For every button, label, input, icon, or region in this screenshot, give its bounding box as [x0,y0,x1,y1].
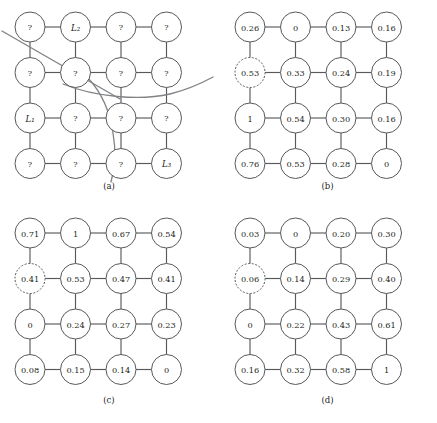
panel-c: 0.7110.670.540.410.530.470.4100.240.270.… [0,203,218,423]
node-value: 0.23 [157,320,175,330]
panel-d-canvas: 0.0300.200.300.060.140.290.4000.220.430.… [218,203,437,423]
panel-c-caption: (c) [0,395,218,405]
node-unknown-marker: ? [73,114,77,123]
node-unknown-marker: ? [164,114,168,123]
node-value: 1 [384,365,389,375]
node-value: 0.41 [21,274,39,284]
panel-c-canvas: 0.7110.670.540.410.530.470.4100.240.270.… [0,203,218,423]
node-value: 0.29 [332,274,350,284]
node-unknown-marker: ? [73,69,77,78]
node-unknown-marker: ? [119,23,123,32]
node-value: 1 [247,114,252,124]
node-value: 0.16 [377,23,395,33]
node-value: 0 [27,320,32,330]
panel-b-nodes: 0.2600.130.160.530.330.240.1910.540.300.… [235,12,402,179]
node-unknown-marker: ? [119,160,123,169]
node-label: L₃ [161,159,172,169]
node-value: 0 [384,159,389,169]
node-value: 0.24 [66,320,84,330]
node-unknown-marker: ? [28,23,32,32]
panel-b-canvas: 0.2600.130.160.530.330.240.1910.540.300.… [218,0,437,203]
node-value: 0.16 [377,114,395,124]
panel-d-caption: (d) [218,395,437,405]
panel-c-edges [30,233,167,370]
node-value: 0.76 [241,159,259,169]
node-value: 0.13 [332,23,350,33]
node-unknown-marker: ? [119,69,123,78]
node-value: 0.14 [286,274,304,284]
panel-a-caption: (a) [0,181,218,191]
node-value: 0.28 [332,159,350,169]
node-value: 0.58 [332,365,350,375]
node-value: 0.53 [66,274,84,284]
node-value: 0.06 [241,274,259,284]
panel-b-edges [250,27,387,164]
node-value: 0 [293,23,298,33]
panel-d-nodes: 0.0300.200.300.060.140.290.4000.220.430.… [235,218,402,385]
node-value: 0.33 [286,68,304,78]
node-value: 0.22 [286,320,304,330]
node-value: 0.41 [157,274,175,284]
node-value: 0.54 [157,229,175,239]
node-unknown-marker: ? [119,114,123,123]
node-unknown-marker: ? [164,69,168,78]
node-value: 0.47 [112,274,130,284]
node-unknown-marker: ? [28,69,32,78]
node-value: 0 [293,229,298,239]
node-value: 1 [73,229,78,239]
node-value: 0.30 [377,229,395,239]
node-unknown-marker: ? [28,160,32,169]
node-value: 0.08 [21,365,39,375]
node-value: 0.61 [377,320,395,330]
node-value: 0.30 [332,114,350,124]
panel-b: 0.2600.130.160.530.330.240.1910.540.300.… [218,0,437,203]
node-value: 0.53 [241,68,259,78]
panel-b-caption: (b) [218,181,437,191]
panel-c-nodes: 0.7110.670.540.410.530.470.4100.240.270.… [15,218,182,385]
node-value: 0.24 [332,68,350,78]
node-value: 0.16 [241,365,259,375]
node-value: 0.27 [112,320,130,330]
node-value: 0.53 [286,159,304,169]
node-value: 0.43 [332,320,350,330]
node-value: 0.20 [332,229,350,239]
panel-a-canvas: ?L₂??????L₁??????L₃ [0,0,218,203]
panel-d-edges [250,233,387,370]
node-value: 0 [164,365,169,375]
node-label: L₂ [70,23,81,33]
figure-panel-grid: ?L₂??????L₁??????L₃ (a) 0.2600.130.160.5… [0,0,437,423]
node-value: 0.32 [286,365,304,375]
node-label: L₁ [24,114,34,124]
node-value: 0.19 [377,68,395,78]
node-value: 0.26 [241,23,259,33]
node-value: 0.40 [377,274,395,284]
node-unknown-marker: ? [164,23,168,32]
node-value: 0.71 [21,229,39,239]
node-value: 0.03 [241,229,259,239]
node-value: 0.14 [112,365,130,375]
node-value: 0 [247,320,252,330]
panel-d: 0.0300.200.300.060.140.290.4000.220.430.… [218,203,437,423]
node-value: 0.67 [112,229,130,239]
node-value: 0.15 [66,365,84,375]
node-value: 0.54 [286,114,304,124]
panel-a: ?L₂??????L₁??????L₃ (a) [0,0,218,203]
panel-a-edges [30,27,167,164]
node-unknown-marker: ? [73,160,77,169]
panel-a-nodes: ?L₂??????L₁??????L₃ [15,12,182,179]
